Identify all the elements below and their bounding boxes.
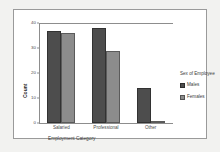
chart-figure: 010203040 Count SalariedProfessionalOthe…: [13, 9, 207, 139]
x-axis-tick-label: Salaried: [53, 126, 70, 131]
y-axis-tick-label: 20: [14, 71, 38, 75]
legend-entry: Males: [180, 83, 220, 88]
y-axis-title: Count: [23, 84, 28, 98]
legend-swatch-icon: [180, 83, 185, 88]
bar: [61, 33, 75, 123]
x-axis-title: Employment Category: [48, 137, 95, 142]
y-axis-tick-label: 0: [14, 121, 38, 125]
x-axis-tick-label: Professional: [93, 126, 118, 131]
bar: [106, 51, 120, 124]
bar: [92, 28, 106, 123]
bar: [47, 31, 61, 124]
bar: [151, 121, 165, 124]
y-axis-tick-label: 30: [14, 46, 38, 50]
legend-swatch-icon: [180, 95, 185, 100]
bar: [137, 88, 151, 123]
legend-entries: MalesFemales: [180, 83, 220, 100]
plot-area: [39, 23, 173, 124]
legend-title: Sex of Employee: [180, 72, 220, 77]
y-axis-tick-label: 40: [14, 21, 38, 25]
legend-entry-label: Females: [187, 95, 205, 100]
legend-entry-label: Males: [187, 83, 199, 88]
chart-legend: Sex of Employee MalesFemales: [180, 72, 220, 106]
x-axis-tick-label: Other: [145, 126, 157, 131]
legend-entry: Females: [180, 95, 220, 100]
